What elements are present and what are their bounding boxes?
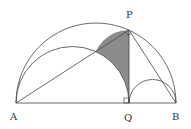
label-q: Q (124, 112, 132, 123)
geometry-diagram: P A Q B (0, 0, 191, 129)
label-a: A (9, 111, 18, 122)
semicircle-qb (129, 80, 176, 103)
label-p: P (126, 9, 133, 20)
shaded-lune (92, 30, 129, 103)
label-b: B (172, 111, 179, 122)
segment-ap (16, 30, 129, 103)
semicircle-ab (16, 23, 176, 103)
right-angle-mark-q (124, 98, 129, 103)
segment-pb (129, 30, 176, 103)
